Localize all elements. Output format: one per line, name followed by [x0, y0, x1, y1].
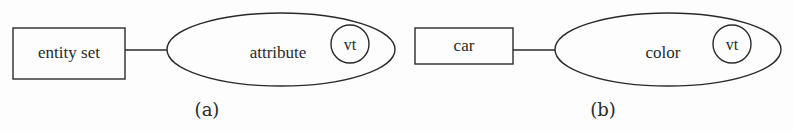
car-entity-label: car — [454, 36, 475, 55]
er-diagram-canvas: entity set attribute vt (a) car color vt… — [0, 0, 793, 131]
color-attribute-label: color — [646, 43, 681, 62]
entity-set-label: entity set — [38, 43, 100, 62]
panel-caption-a: (a) — [195, 99, 220, 120]
panel-b: car color vt (b) — [415, 13, 781, 120]
panel-a: entity set attribute vt (a) — [13, 13, 395, 120]
vt-marker-label: vt — [726, 36, 739, 53]
vt-marker-label: vt — [344, 36, 357, 53]
attribute-label: attribute — [250, 43, 307, 62]
panel-caption-b: (b) — [590, 99, 616, 120]
